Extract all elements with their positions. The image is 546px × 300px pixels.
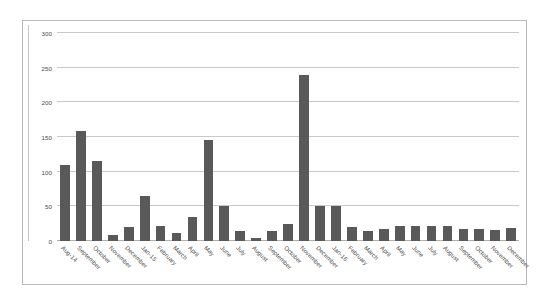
bar[interactable] bbox=[363, 231, 373, 241]
bar[interactable] bbox=[156, 226, 166, 241]
bar-slot bbox=[312, 33, 328, 241]
x-label-slot: October bbox=[280, 243, 296, 287]
bar[interactable] bbox=[427, 226, 437, 241]
plot-area bbox=[57, 33, 519, 241]
bar-slot bbox=[216, 33, 232, 241]
bar[interactable] bbox=[60, 165, 70, 241]
x-axis-tick-label: May bbox=[395, 244, 408, 257]
bar[interactable] bbox=[379, 229, 389, 241]
bar[interactable] bbox=[204, 140, 214, 241]
bar-slot bbox=[137, 33, 153, 241]
bar[interactable] bbox=[219, 206, 229, 241]
bar-slot bbox=[105, 33, 121, 241]
bar[interactable] bbox=[108, 235, 118, 241]
x-label-slot: October bbox=[89, 243, 105, 287]
bar-slot bbox=[57, 33, 73, 241]
bar-slot bbox=[376, 33, 392, 241]
bar[interactable] bbox=[267, 231, 277, 241]
y-axis-tick-label: 200 bbox=[41, 99, 52, 106]
x-axis-tick-label: December bbox=[506, 244, 531, 269]
bar-slot bbox=[264, 33, 280, 241]
bar[interactable] bbox=[459, 229, 469, 241]
y-axis-tick-label: 100 bbox=[41, 168, 52, 175]
bar-slot bbox=[471, 33, 487, 241]
x-label-slot: March bbox=[169, 243, 185, 287]
x-label-slot: July bbox=[424, 243, 440, 287]
y-axis-tick-label: 50 bbox=[45, 203, 52, 210]
bar-slot bbox=[121, 33, 137, 241]
bar[interactable] bbox=[140, 196, 150, 241]
x-label-slot: June bbox=[216, 243, 232, 287]
x-label-slot: Aug-14 bbox=[57, 243, 73, 287]
bar-slot bbox=[185, 33, 201, 241]
chart-page: 050100150200250300 Aug-14SeptemberOctobe… bbox=[0, 0, 546, 300]
x-label-slot: Jan-15 bbox=[137, 243, 153, 287]
bar-slot bbox=[487, 33, 503, 241]
bar[interactable] bbox=[283, 224, 293, 241]
x-label-slot: May bbox=[200, 243, 216, 287]
x-label-slot: February bbox=[153, 243, 169, 287]
x-label-slot: May bbox=[392, 243, 408, 287]
bar-slot bbox=[455, 33, 471, 241]
y-axis-tick-label: 300 bbox=[41, 30, 52, 37]
x-label-slot: November bbox=[296, 243, 312, 287]
y-axis-tick-label: 150 bbox=[41, 134, 52, 141]
x-label-slot: April bbox=[376, 243, 392, 287]
bar-slot bbox=[73, 33, 89, 241]
x-label-slot: October bbox=[471, 243, 487, 287]
x-axis-tick-label: July bbox=[427, 244, 440, 257]
bar[interactable] bbox=[490, 230, 500, 241]
bar-slot bbox=[296, 33, 312, 241]
bar[interactable] bbox=[188, 217, 198, 241]
x-axis-tick-labels: Aug-14SeptemberOctoberNovemberDecemberJa… bbox=[57, 243, 519, 287]
bar-slot bbox=[89, 33, 105, 241]
x-label-slot: March bbox=[360, 243, 376, 287]
x-label-slot: December bbox=[121, 243, 137, 287]
y-axis-tick-labels: 050100150200250300 bbox=[23, 21, 55, 284]
x-label-slot: December bbox=[503, 243, 519, 287]
y-axis-tick-label: 250 bbox=[41, 64, 52, 71]
x-label-slot: July bbox=[232, 243, 248, 287]
x-label-slot: September bbox=[455, 243, 471, 287]
bar[interactable] bbox=[347, 227, 357, 241]
bar[interactable] bbox=[235, 231, 245, 241]
bar[interactable] bbox=[299, 75, 309, 241]
bar[interactable] bbox=[506, 228, 516, 241]
bar[interactable] bbox=[331, 206, 341, 241]
bar-slot bbox=[169, 33, 185, 241]
x-label-slot: August bbox=[248, 243, 264, 287]
bar-slot bbox=[440, 33, 456, 241]
x-axis-tick-label: April bbox=[188, 244, 202, 258]
bar-slot bbox=[232, 33, 248, 241]
bar[interactable] bbox=[411, 226, 421, 241]
chart-frame: 050100150200250300 Aug-14SeptemberOctobe… bbox=[22, 20, 527, 285]
bar-slot bbox=[408, 33, 424, 241]
bar[interactable] bbox=[124, 227, 134, 241]
bar-slot bbox=[344, 33, 360, 241]
x-axis-tick-label: April bbox=[379, 244, 393, 258]
bar[interactable] bbox=[251, 238, 261, 241]
x-axis-tick-label: May bbox=[203, 244, 216, 257]
plot-wrapper: 050100150200250300 Aug-14SeptemberOctobe… bbox=[23, 21, 526, 284]
bar-slot bbox=[280, 33, 296, 241]
y-axis-tick-label: 0 bbox=[48, 238, 52, 245]
bar[interactable] bbox=[474, 229, 484, 241]
bar[interactable] bbox=[443, 226, 453, 241]
x-axis-tick-label: July bbox=[235, 244, 248, 257]
x-label-slot: November bbox=[487, 243, 503, 287]
x-label-slot: August bbox=[440, 243, 456, 287]
bar[interactable] bbox=[172, 233, 182, 241]
bar-slot bbox=[424, 33, 440, 241]
bar[interactable] bbox=[92, 161, 102, 241]
x-label-slot: November bbox=[105, 243, 121, 287]
x-label-slot: December bbox=[312, 243, 328, 287]
bar-series bbox=[57, 33, 519, 241]
bar[interactable] bbox=[76, 131, 86, 241]
bar-slot bbox=[153, 33, 169, 241]
bar[interactable] bbox=[315, 206, 325, 241]
bar-slot bbox=[360, 33, 376, 241]
bar[interactable] bbox=[395, 226, 405, 241]
bar-slot bbox=[392, 33, 408, 241]
x-label-slot: February bbox=[344, 243, 360, 287]
bar-slot bbox=[200, 33, 216, 241]
